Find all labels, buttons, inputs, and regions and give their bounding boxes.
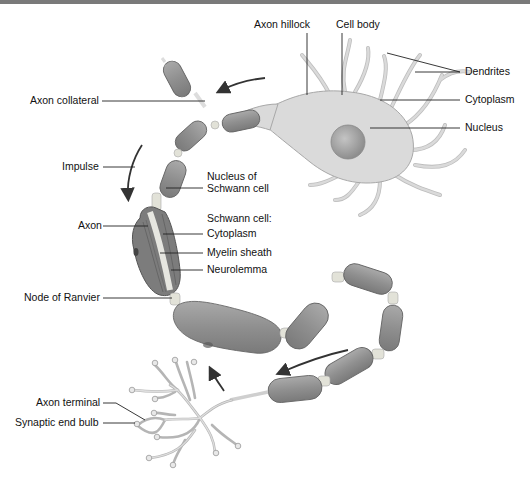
schwann-cell-cutaway xyxy=(132,207,180,296)
label-nucleus-schwann-2: Schwann cell xyxy=(207,182,269,194)
label-schwann-cell-heading: Schwann cell: xyxy=(207,212,272,224)
label-synaptic-end-bulb: Synaptic end bulb xyxy=(15,416,99,428)
synaptic-end-bulb xyxy=(134,421,140,427)
label-schwann-cytoplasm: Cytoplasm xyxy=(207,227,257,239)
label-nucleus-schwann-1: Nucleus of xyxy=(207,170,257,182)
label-impulse: Impulse xyxy=(62,160,99,172)
label-axon: Axon xyxy=(78,219,102,231)
label-node-of-ranvier: Node of Ranvier xyxy=(24,291,100,303)
nucleus xyxy=(331,125,365,159)
label-nucleus: Nucleus xyxy=(465,121,503,133)
label-myelin-sheath: Myelin sheath xyxy=(207,246,272,258)
neuron-diagram: Axon hillock Cell body Dendrites Cytopla… xyxy=(0,0,530,489)
label-axon-collateral: Axon collateral xyxy=(30,94,99,106)
label-cytoplasm-cell: Cytoplasm xyxy=(465,93,515,105)
label-axon-terminal: Axon terminal xyxy=(36,396,100,408)
axon-terminals xyxy=(129,357,241,468)
label-dendrites: Dendrites xyxy=(465,65,510,77)
label-cell-body: Cell body xyxy=(336,18,381,30)
label-neurolemma: Neurolemma xyxy=(207,263,267,275)
axon-collateral-branch xyxy=(160,58,205,107)
label-axon-hillock: Axon hillock xyxy=(254,18,311,30)
